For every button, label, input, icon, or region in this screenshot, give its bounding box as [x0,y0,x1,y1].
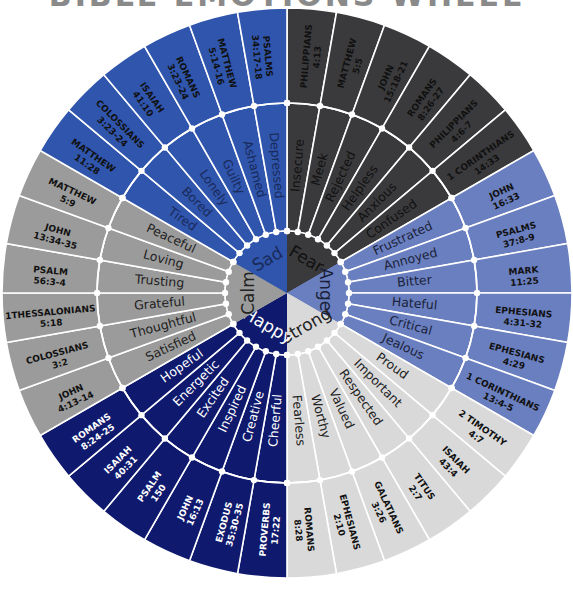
node-dot [284,352,290,358]
node-dot [337,259,343,265]
node-dot [471,257,477,263]
node-dot [119,385,125,391]
node-dot [305,232,311,238]
node-dot [251,477,257,483]
node-dot [462,225,468,231]
node-dot [345,301,351,307]
node-dot [273,229,279,235]
node-dot [223,301,229,307]
node-dot [138,168,144,174]
node-dot [471,323,477,329]
node-dot [448,385,454,391]
node-dot [331,250,337,256]
node-dot [379,125,385,131]
reference-verse: 8:28 [292,519,304,542]
node-dot [305,348,311,354]
node-dot [236,330,242,336]
node-dot [379,454,385,460]
emotions-wheel: InsecurePHILIPPIANS4:13MeekMATTHEW5:5Rej… [0,0,573,612]
node-dot [337,321,343,327]
reference-verse: 5:18 [40,317,63,329]
node-dot [244,337,250,343]
node-dot [295,351,301,357]
node-dot [230,321,236,327]
node-dot [429,412,435,418]
emotion-label: Bitter [396,272,433,290]
node-dot [284,480,290,486]
node-dot [295,229,301,235]
core-emotion-label: Calm [238,271,258,315]
node-dot [230,259,236,265]
node-dot [429,168,435,174]
node-dot [219,468,225,474]
node-dot [226,311,232,317]
node-dot [346,290,352,296]
node-dot [284,228,290,234]
node-dot [406,144,412,150]
node-dot [462,355,468,361]
node-dot [105,355,111,361]
node-dot [236,250,242,256]
node-dot [97,323,103,329]
node-dot [219,111,225,117]
node-dot [94,290,100,296]
node-dot [263,232,269,238]
node-dot [349,468,355,474]
node-dot [162,144,168,150]
node-dot [342,269,348,275]
node-dot [253,236,259,242]
node-dot [448,195,454,201]
node-dot [315,236,321,242]
node-dot [251,103,257,109]
node-dot [273,351,279,357]
node-dot [317,103,323,109]
node-dot [222,290,228,296]
reference-verse: 4:13 [311,46,323,69]
node-dot [317,477,323,483]
node-dot [406,435,412,441]
node-dot [349,111,355,117]
node-dot [315,343,321,349]
node-dot [97,257,103,263]
node-dot [253,343,259,349]
node-dot [223,279,229,285]
node-dot [189,454,195,460]
node-dot [474,290,480,296]
node-dot [342,311,348,317]
node-dot [324,242,330,248]
node-dot [138,412,144,418]
node-dot [244,242,250,248]
node-dot [226,269,232,275]
node-dot [331,330,337,336]
node-dot [105,225,111,231]
node-dot [119,195,125,201]
node-dot [345,279,351,285]
node-dot [162,435,168,441]
node-dot [324,337,330,343]
node-dot [284,100,290,106]
node-dot [189,125,195,131]
node-dot [263,348,269,354]
